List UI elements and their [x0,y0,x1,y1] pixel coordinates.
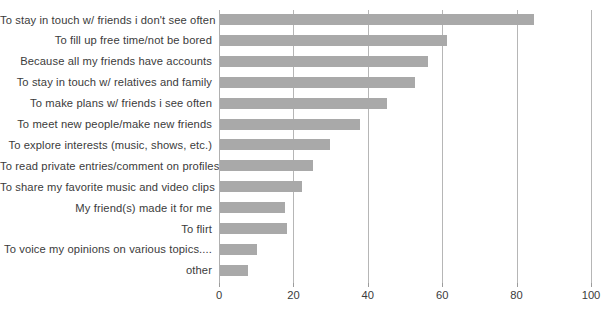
category-label: My friend(s) made it for me [0,202,212,214]
category-label: To stay in touch w/ friends i don't see … [0,14,212,26]
bar [220,35,447,46]
x-tick-label-0: 0 [216,289,222,302]
x-tick-label-20: 20 [287,289,299,302]
category-labels: To stay in touch w/ friends i don't see … [0,10,212,283]
tick-60 [442,283,443,287]
category-label: To make plans w/ friends i see often [0,97,212,109]
bar [220,202,285,213]
tick-20 [293,283,294,287]
bar [220,119,360,130]
x-tick-label-60: 60 [436,289,448,302]
category-label: To meet new people/make new friends [0,118,212,130]
tick-100 [591,283,592,287]
plot-area [219,10,591,283]
bar [220,14,534,25]
gridline-40 [368,10,369,283]
bar [220,244,257,255]
tick-40 [368,283,369,287]
tick-0 [219,283,220,287]
category-label: Because all my friends have accounts [0,55,212,67]
bar [220,56,428,67]
category-label: To flirt [0,223,212,235]
tick-80 [517,283,518,287]
gridline-100 [591,10,592,283]
category-label: To fill up free time/not be bored [0,34,212,46]
bar [220,139,330,150]
category-label: To stay in touch w/ relatives and family [0,76,212,88]
x-tick-label-40: 40 [362,289,374,302]
category-label: To voice my opinions on various topics..… [0,243,212,255]
bar [220,77,415,88]
x-axis-tick-labels: 020406080100 [219,289,591,309]
bar [220,223,287,234]
gridline-80 [517,10,518,283]
category-label: other [0,264,212,276]
x-tick-label-80: 80 [510,289,522,302]
bar [220,181,302,192]
bar [220,160,313,171]
bar [220,98,387,109]
bar [220,265,248,276]
category-label: To read private entries/comment on profi… [0,160,212,172]
category-label: To share my favorite music and video cli… [0,181,212,193]
gridline-60 [442,10,443,283]
bar-chart: To stay in touch w/ friends i don't see … [0,0,607,314]
x-tick-label-100: 100 [582,289,601,302]
category-label: To explore interests (music, shows, etc.… [0,139,212,151]
